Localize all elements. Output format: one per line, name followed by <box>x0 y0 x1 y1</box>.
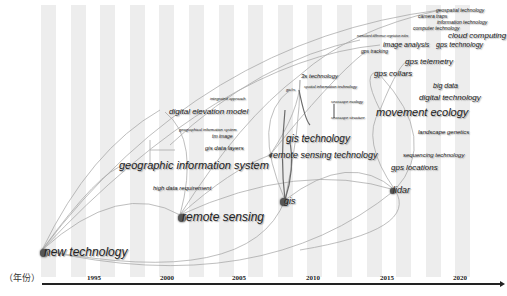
keyword-label: new technology <box>44 246 127 258</box>
keyword-label: seascape structure <box>331 116 365 120</box>
keyword-timeline-diagram: new technologyremote sensinggeographic i… <box>0 0 507 296</box>
keyword-label: gps tracking <box>361 49 388 54</box>
keyword-label: geographic information system <box>119 160 269 171</box>
keyword-label: spatial information technology <box>304 85 357 89</box>
keyword-label: integrated approach <box>210 97 246 101</box>
keyword-label: computer technology <box>413 26 459 31</box>
keyword-label: gps collars <box>374 70 412 78</box>
keyword-label: landscape genetics <box>418 129 469 135</box>
keyword-label: gis technology <box>286 134 350 144</box>
axis-arrow-icon <box>500 281 505 287</box>
keyword-label: sequencing technology <box>403 152 464 158</box>
axis-label: （年份） <box>4 271 40 284</box>
year-tick: 2005 <box>232 274 246 282</box>
keyword-label: digital technology <box>419 94 481 102</box>
keyword-label: normalized difference vegetation index <box>357 35 408 38</box>
keyword-label: geographical information system <box>179 128 237 132</box>
keyword-label: geospatial technology <box>436 8 484 13</box>
timeline-axis <box>42 283 502 285</box>
keyword-label: gis/rs <box>286 88 296 92</box>
keyword-label: movement ecology <box>376 107 468 118</box>
keyword-label: high data requirement <box>153 185 211 191</box>
keyword-label: gis data layers <box>205 145 244 151</box>
keyword-label: image analysis <box>383 41 429 48</box>
year-tick: 2010 <box>306 274 320 282</box>
year-tick: 2015 <box>380 274 394 282</box>
year-tick: 1995 <box>87 274 101 282</box>
keyword-label: seascape ecology <box>331 100 363 104</box>
keyword-label: remote sensing technology <box>270 151 378 160</box>
keyword-label: camera traps <box>418 14 447 19</box>
keyword-label: lidar <box>393 186 410 195</box>
keyword-label: gps technology <box>436 41 483 48</box>
keyword-label: gps telemetry <box>405 58 453 66</box>
year-tick: 2000 <box>160 274 174 282</box>
year-tick: 2020 <box>453 274 467 282</box>
keyword-label: 3s technology <box>301 73 338 79</box>
keyword-label: gis <box>284 197 296 206</box>
keyword-label: big data <box>433 82 458 89</box>
keyword-label: cloud computing <box>448 32 506 40</box>
keyword-label: information technology <box>437 20 487 25</box>
keyword-label: tm image <box>212 134 233 139</box>
keyword-label: remote sensing <box>182 211 264 223</box>
keyword-label: digital elevation model <box>169 108 248 116</box>
keyword-label: gps locations <box>391 164 438 172</box>
